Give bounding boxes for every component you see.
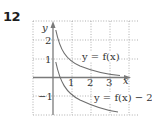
y-axis-label: y [41, 22, 48, 33]
tick-x-3: 3 [106, 77, 112, 88]
tick-x-1: 1 [68, 77, 74, 88]
tick-y-minus-1: −1 [38, 91, 53, 102]
tick-x-2: 2 [87, 77, 93, 88]
tick-y-1: 1 [45, 54, 51, 65]
tick-y-2: 2 [45, 35, 51, 46]
x-axis-label: x [123, 75, 129, 86]
y-axis-arrow-icon [51, 21, 56, 28]
curve-f-minus-2-label: y = f(x) − 2 [93, 92, 152, 103]
curve-f-label: y = f(x) [81, 51, 120, 62]
graph: y x 1 2 3 2 1 −1 y = f(x) y = f(x) − 2 [0, 0, 152, 130]
